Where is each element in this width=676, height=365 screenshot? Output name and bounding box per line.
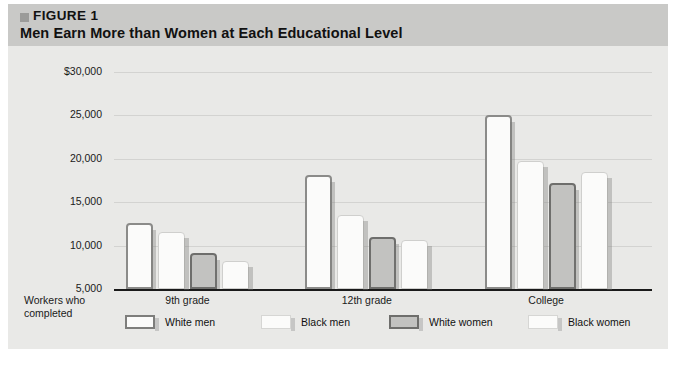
bar-shadow xyxy=(607,178,612,290)
figure-panel: FIGURE 1 Men Earn More than Women at Eac… xyxy=(8,4,668,349)
bar-shadow xyxy=(510,122,515,289)
bar-white-women-college xyxy=(549,183,576,289)
bar-black-women-9th-grade xyxy=(222,261,249,289)
x-axis-label-12th-grade: 12th grade xyxy=(285,294,448,306)
bar-shadow xyxy=(215,260,220,289)
legend-swatch-shadow xyxy=(558,318,562,331)
legend-label: Black men xyxy=(301,316,350,328)
bar-shadow xyxy=(574,190,579,289)
bar-shadow xyxy=(427,246,432,290)
y-axis-tick-label: 15,000 xyxy=(38,195,102,207)
legend-swatch-shadow xyxy=(419,318,423,331)
y-axis-tick-label: 25,000 xyxy=(38,108,102,120)
legend-label: White men xyxy=(165,316,215,328)
x-axis-caption-line1: Workers who xyxy=(24,294,116,307)
figure-label: FIGURE 1 xyxy=(33,8,98,23)
legend-swatch-shadow xyxy=(291,318,295,331)
bar-shadow xyxy=(543,167,548,290)
bar-black-men-12th-grade xyxy=(337,215,364,289)
y-axis-tick-label: 5,000 xyxy=(38,282,102,294)
chart-plot-area: $30,00025,00020,00015,00010,0005,000 Wor… xyxy=(8,46,668,349)
legend-swatch xyxy=(261,315,291,329)
chart-legend: White menBlack menWhite womenBlack women xyxy=(8,314,668,338)
bar-white-women-12th-grade xyxy=(369,237,396,289)
bar-shadow xyxy=(151,230,156,289)
y-axis-tick-label: $30,000 xyxy=(38,65,102,77)
bar-series-container xyxy=(114,46,652,289)
bar-black-women-college xyxy=(581,172,608,289)
figure-header: FIGURE 1 Men Earn More than Women at Eac… xyxy=(8,4,668,46)
bar-black-men-9th-grade xyxy=(158,232,185,289)
x-axis-label-9th-grade: 9th grade xyxy=(106,294,269,306)
x-axis-line xyxy=(114,289,652,291)
legend-swatch xyxy=(528,315,558,329)
bar-shadow xyxy=(394,244,399,289)
bar-black-men-college xyxy=(517,161,544,289)
bar-white-men-college xyxy=(485,115,512,289)
legend-swatch-shadow xyxy=(155,318,159,331)
bar-shadow xyxy=(248,267,253,290)
bar-white-men-12th-grade xyxy=(305,175,332,289)
bar-shadow xyxy=(330,182,335,289)
legend-label: White women xyxy=(429,316,493,328)
bar-white-women-9th-grade xyxy=(190,253,217,289)
y-axis-labels: $30,00025,00020,00015,00010,0005,000 xyxy=(28,46,102,296)
legend-label: Black women xyxy=(568,316,630,328)
footnote-text xyxy=(18,356,668,364)
figure-bullet-icon xyxy=(20,13,29,22)
bar-white-men-9th-grade xyxy=(126,223,153,289)
legend-swatch xyxy=(125,315,155,329)
bar-shadow xyxy=(184,238,189,290)
legend-swatch xyxy=(389,315,419,329)
bar-shadow xyxy=(363,221,368,290)
figure-title: Men Earn More than Women at Each Educati… xyxy=(20,25,403,41)
y-axis-tick-label: 10,000 xyxy=(38,239,102,251)
y-axis-tick-label: 20,000 xyxy=(38,152,102,164)
x-axis-label-college: College xyxy=(465,294,628,306)
bar-black-women-12th-grade xyxy=(401,240,428,289)
